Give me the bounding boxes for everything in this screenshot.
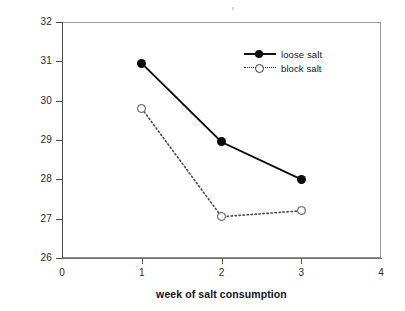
y-axis-line (62, 22, 63, 259)
y-tick-31 (56, 61, 62, 62)
chart-legend: loose salt block salt (243, 47, 322, 75)
y-tick-26 (56, 258, 62, 259)
y-tick-30 (56, 101, 62, 102)
legend-item-loose-salt[interactable]: loose salt (243, 47, 322, 61)
chart-figure: 32313029282726 01234 week of salt consum… (0, 0, 405, 311)
x-tick-label-3: 3 (291, 268, 311, 278)
open-circle-icon (255, 64, 264, 73)
y-tick-label-26: 26 (26, 253, 52, 263)
y-tick-27 (56, 219, 62, 220)
y-tick-label-32: 32 (26, 17, 52, 27)
x-tick-label-0: 0 (52, 268, 72, 278)
y-tick-label-28: 28 (26, 174, 52, 184)
scan-artifact-speck (232, 7, 234, 10)
x-tick-1 (142, 258, 143, 264)
y-tick-label-27: 27 (26, 214, 52, 224)
legend-item-block-salt[interactable]: block salt (243, 61, 322, 75)
x-tick-label-2: 2 (212, 268, 232, 278)
y-tick-32 (56, 22, 62, 23)
x-tick-label-1: 1 (132, 268, 152, 278)
data-point-block-salt-week-3 (297, 206, 306, 215)
legend-key-block-salt (243, 61, 277, 75)
x-axis-title: week of salt consumption (62, 288, 381, 300)
x-tick-label-4: 4 (371, 268, 391, 278)
legend-label-loose-salt: loose salt (281, 48, 322, 61)
y-tick-label-30: 30 (26, 96, 52, 106)
y-tick-28 (56, 179, 62, 180)
y-tick-label-31: 31 (26, 56, 52, 66)
data-point-loose-salt-week-1 (137, 59, 146, 68)
y-tick-29 (56, 140, 62, 141)
x-tick-3 (301, 258, 302, 264)
filled-circle-icon (255, 50, 263, 58)
legend-label-block-salt: block salt (281, 62, 322, 75)
x-tick-2 (222, 258, 223, 264)
legend-key-loose-salt (243, 47, 277, 61)
data-point-loose-salt-week-3 (297, 175, 306, 184)
y-tick-label-29: 29 (26, 135, 52, 145)
